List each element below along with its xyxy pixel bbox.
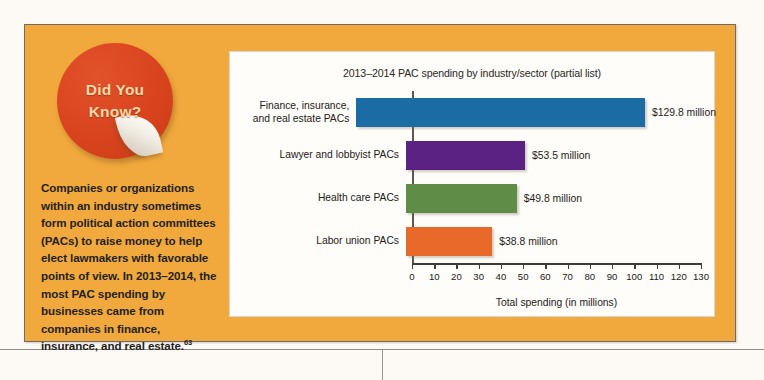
bar-value-label-0: $129.8 million — [652, 107, 716, 118]
table-row: Lawyer and lobbyist PACs $53.5 million — [230, 134, 716, 177]
x-tick-label-0: 0 — [409, 271, 414, 282]
did-you-know-sticker: Did You Know? — [57, 43, 181, 165]
x-tick-100 — [634, 263, 635, 269]
chart-plot-area: Finance, insurance, and real estate PACs… — [230, 91, 716, 296]
x-axis-ticks: 0102030405060708090100110120130 — [412, 263, 701, 297]
x-tick-label-10: 10 — [429, 271, 440, 282]
bar-category-label-0: Finance, insurance, and real estate PACs — [230, 100, 356, 126]
x-tick-90 — [612, 263, 613, 269]
x-tick-label-80: 80 — [585, 271, 596, 282]
bar-area-1: $53.5 million — [406, 134, 716, 177]
x-tick-label-100: 100 — [626, 271, 642, 282]
x-tick-60 — [545, 263, 546, 269]
x-tick-50 — [523, 263, 524, 269]
bar-category-label-0-line2: and real estate PACs — [253, 113, 350, 124]
x-tick-40 — [501, 263, 502, 269]
bar-area-2: $49.8 million — [406, 177, 716, 220]
chart-title: 2013–2014 PAC spending by industry/secto… — [230, 67, 714, 79]
x-tick-110 — [657, 263, 658, 269]
x-tick-130 — [701, 263, 702, 269]
x-tick-label-70: 70 — [562, 271, 573, 282]
x-axis-title: Total spending (in millions) — [412, 297, 701, 308]
bar-area-3: $38.8 million — [406, 220, 716, 263]
bar-category-label-3-line1: Labor union PACs — [316, 235, 399, 246]
bar-2[interactable] — [406, 184, 517, 213]
x-tick-30 — [479, 263, 480, 269]
did-you-know-feature-box: Did You Know? Companies or organizations… — [24, 24, 736, 342]
bar-3[interactable] — [406, 227, 492, 256]
table-row: Health care PACs $49.8 million — [230, 177, 716, 220]
bar-value-label-3: $38.8 million — [499, 236, 557, 247]
x-tick-label-40: 40 — [496, 271, 507, 282]
bar-0[interactable] — [356, 98, 645, 127]
bar-category-label-3: Labor union PACs — [230, 235, 406, 248]
x-tick-label-50: 50 — [518, 271, 529, 282]
chart-panel: 2013–2014 PAC spending by industry/secto… — [229, 51, 715, 317]
feature-body-text: Companies or organizations within an ind… — [41, 179, 219, 355]
x-tick-70 — [568, 263, 569, 269]
page-root: Did You Know? Companies or organizations… — [0, 0, 764, 380]
table-row: Labor union PACs $38.8 million — [230, 220, 716, 263]
x-tick-label-30: 30 — [473, 271, 484, 282]
table-row: Finance, insurance, and real estate PACs… — [230, 91, 716, 134]
sticker-label-line2: Know? — [89, 101, 142, 123]
x-tick-0 — [412, 263, 413, 269]
sticker-label-line1: Did You — [86, 79, 145, 101]
footnote-marker: 63 — [184, 339, 192, 348]
x-tick-80 — [590, 263, 591, 269]
bar-category-label-1: Lawyer and lobbyist PACs — [230, 149, 406, 162]
bar-category-label-2: Health care PACs — [230, 192, 406, 205]
bar-value-label-2: $49.8 million — [524, 193, 582, 204]
page-column-divider — [382, 350, 383, 380]
x-tick-label-120: 120 — [671, 271, 687, 282]
feature-body-copy: Companies or organizations within an ind… — [41, 181, 216, 352]
x-tick-120 — [679, 263, 680, 269]
bar-1[interactable] — [406, 141, 525, 170]
x-tick-label-20: 20 — [451, 271, 462, 282]
x-tick-20 — [456, 263, 457, 269]
x-tick-label-90: 90 — [607, 271, 618, 282]
bar-category-label-2-line1: Health care PACs — [318, 192, 399, 203]
sticker-label: Did You Know? — [57, 43, 173, 159]
bar-category-label-1-line1: Lawyer and lobbyist PACs — [280, 149, 399, 160]
bar-value-label-1: $53.5 million — [532, 150, 590, 161]
x-tick-label-130: 130 — [693, 271, 709, 282]
bar-category-label-0-line1: Finance, insurance, — [259, 100, 349, 111]
bar-area-0: $129.8 million — [356, 91, 716, 134]
x-tick-label-110: 110 — [649, 271, 664, 282]
x-tick-label-60: 60 — [540, 271, 551, 282]
feature-sidebar: Did You Know? Companies or organizations… — [25, 25, 225, 341]
x-tick-10 — [434, 263, 435, 269]
